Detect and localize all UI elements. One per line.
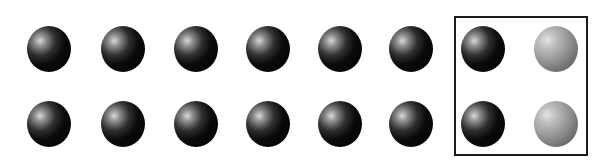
dark-sphere — [246, 26, 290, 72]
dark-sphere — [27, 101, 71, 147]
dark-sphere — [389, 101, 433, 147]
dark-sphere — [461, 101, 505, 147]
dark-sphere — [27, 26, 71, 72]
dark-sphere — [246, 101, 290, 147]
dark-sphere — [318, 26, 362, 72]
dark-sphere — [101, 26, 145, 72]
dark-sphere — [174, 101, 218, 147]
dark-sphere — [318, 101, 362, 147]
light-sphere — [534, 26, 578, 72]
light-sphere — [534, 101, 578, 147]
dark-sphere — [389, 26, 433, 72]
dark-sphere — [174, 26, 218, 72]
dark-sphere — [101, 101, 145, 147]
dark-sphere — [461, 26, 505, 72]
